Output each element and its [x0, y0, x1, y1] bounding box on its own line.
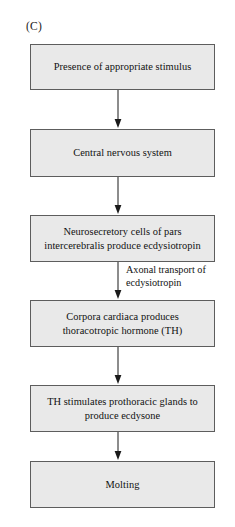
- flow-node-4: Corpora cardiaca produces thoracotropic …: [30, 300, 215, 347]
- flow-edge-3-label: Axonal transport of ecdysiotropin: [126, 264, 231, 289]
- flow-arrow-3: [113, 262, 124, 300]
- flow-node-6-label: Molting: [106, 478, 140, 491]
- flow-node-5: TH stimulates prothoracic glands to prod…: [30, 385, 215, 432]
- panel-label: (C): [26, 20, 42, 32]
- flow-node-1: Presence of appropriate stimulus: [30, 44, 215, 90]
- flow-arrow-4: [113, 347, 124, 385]
- flow-node-1-label: Presence of appropriate stimulus: [54, 60, 192, 73]
- flow-arrow-1: [113, 90, 124, 129]
- flow-node-6: Molting: [30, 461, 215, 508]
- flow-node-2-label: Central nervous system: [73, 146, 172, 159]
- flow-node-2: Central nervous system: [30, 129, 215, 177]
- flow-arrow-5: [113, 432, 124, 461]
- flow-node-3-label: Neurosecretory cells of pars intercerebr…: [37, 225, 208, 251]
- flow-node-4-label: Corpora cardiaca produces thoracotropic …: [37, 310, 208, 336]
- flow-arrow-2: [113, 177, 124, 215]
- flowchart-figure: (C) Presence of appropriate stimulus Cen…: [0, 0, 235, 527]
- flow-node-5-label: TH stimulates prothoracic glands to prod…: [37, 395, 208, 421]
- flow-node-3: Neurosecretory cells of pars intercerebr…: [30, 215, 215, 262]
